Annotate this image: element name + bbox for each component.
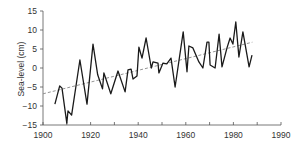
- x-tick-label: 1900: [34, 130, 53, 140]
- y-tick-label: 0: [32, 63, 37, 73]
- x-axis: 190019201940196019801990: [34, 122, 291, 140]
- sea-level-line: [55, 22, 252, 123]
- y-tick-label: 5: [32, 44, 37, 54]
- y-tick-label: −15: [23, 120, 38, 130]
- sea-level-chart: 151050−5−10−15 190019201940196019801990 …: [0, 0, 303, 150]
- x-tick-label: 1960: [176, 130, 195, 140]
- x-tick-label: 1920: [81, 130, 100, 140]
- x-tick-label: 1940: [129, 130, 148, 140]
- x-tick-label: 1980: [224, 130, 243, 140]
- y-axis-title: Sea-level (cm): [16, 41, 26, 96]
- y-tick-label: −5: [27, 82, 37, 92]
- y-tick-label: −10: [23, 101, 38, 111]
- y-tick-label: 15: [28, 6, 38, 16]
- x-tick-label: 1990: [272, 130, 291, 140]
- y-tick-label: 10: [28, 25, 38, 35]
